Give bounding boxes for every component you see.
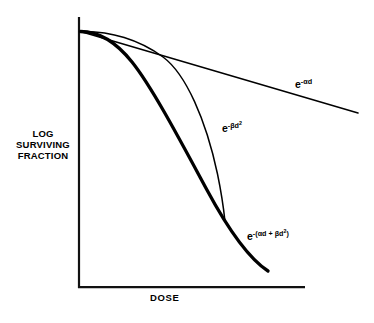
- curve-label-combined: e-(αd + βd2): [247, 230, 289, 242]
- curve-label-beta: e-βd2: [222, 122, 242, 134]
- y-axis-label: LOG SURVIVING FRACTION: [10, 128, 76, 161]
- survival-curve-figure: LOG SURVIVING FRACTION DOSE e-αd e-βd2 e…: [0, 0, 374, 323]
- curve-label-combined-exponent-tail: ): [286, 229, 288, 238]
- curve-alpha: [81, 32, 359, 114]
- curve-label-alpha-exponent: -αd: [301, 77, 312, 86]
- curve-label-combined-exponent: -(αd + βd2): [253, 229, 289, 238]
- curve-label-beta-exponent: -βd2: [228, 121, 242, 130]
- curve-label-combined-exponent-text: -(αd + βd: [253, 229, 284, 238]
- curve-label-beta-exponent-power: 2: [239, 119, 242, 125]
- curve-label-beta-exponent-text: -βd: [228, 121, 239, 130]
- curve-label-alpha: e-αd: [295, 78, 312, 90]
- curve-beta: [81, 31, 226, 221]
- x-axis-label: DOSE: [150, 292, 179, 303]
- plot-area: [0, 0, 374, 323]
